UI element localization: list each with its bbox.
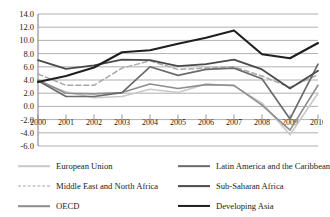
y-axis-tick-label: 8.0 (23, 49, 34, 59)
legend-swatch-latin-america-and-the-caribbean (178, 161, 210, 171)
legend-label-sub-saharan-africa: Sub-Saharan Africa (216, 181, 284, 191)
chart-svg: -6.0-4.0-2.00.02.04.06.08.010.012.014.0 … (0, 0, 323, 155)
legend-label-middle-east-and-north-africa: Middle East and North Africa (56, 181, 158, 191)
legend-item-sub-saharan-africa: Sub-Saharan Africa (178, 176, 323, 196)
legend-swatch-oecd (18, 201, 50, 211)
y-axis-tick-label: 4.0 (23, 75, 34, 85)
x-axis-tick-label: 2006 (198, 118, 214, 127)
legend-item-european-union: European Union (18, 156, 178, 176)
y-axis-tick-label: 10.0 (19, 35, 34, 45)
x-axis-tick-label: 2007 (226, 118, 242, 127)
legend-item-middle-east-and-north-africa: Middle East and North Africa (18, 176, 178, 196)
legend-swatch-european-union (18, 161, 50, 171)
legend-column-right: Latin America and the Caribbean Sub-Saha… (178, 156, 323, 216)
legend-label-european-union: European Union (56, 161, 113, 171)
legend-swatch-sub-saharan-africa (178, 181, 210, 191)
plot-area: -6.0-4.0-2.00.02.04.06.08.010.012.014.0 … (0, 0, 323, 155)
legend-column-left: European Union Middle East and North Afr… (18, 156, 178, 216)
legend-item-oecd: OECD (18, 196, 178, 216)
chart-legend: European Union Middle East and North Afr… (0, 156, 323, 217)
y-axis-tick-label: 0.0 (23, 101, 34, 111)
x-axis-tick-label: 2001 (58, 118, 74, 127)
y-axis-tick-label: -6.0 (21, 141, 34, 151)
series-line-middle-east-and-north-africa (38, 61, 318, 87)
series-line-developing-asia (38, 31, 318, 82)
x-axis-tick-label: 2008 (254, 118, 270, 127)
series-line-sub-saharan-africa (38, 60, 318, 89)
y-axis-tick-label: 14.0 (19, 9, 34, 19)
legend-label-oecd: OECD (56, 201, 79, 211)
legend-item-developing-asia: Developing Asia (178, 196, 323, 216)
legend-label-latin-america-and-the-caribbean: Latin America and the Caribbean (216, 161, 330, 171)
y-axis-tick-label: 12.0 (19, 22, 34, 32)
x-axis-tick-label: 2003 (114, 118, 130, 127)
y-axis-tick-label: 6.0 (23, 62, 34, 72)
y-axis-tick-label: 2.0 (23, 88, 34, 98)
legend-swatch-middle-east-and-north-africa (18, 181, 50, 191)
legend-item-latin-america-and-the-caribbean: Latin America and the Caribbean (178, 156, 323, 176)
x-axis-tick-label: 2004 (142, 118, 158, 127)
y-axis-tick-label: -4.0 (21, 128, 34, 138)
x-axis-tick-label: 2005 (170, 118, 186, 127)
legend-label-developing-asia: Developing Asia (216, 201, 274, 211)
legend-swatch-developing-asia (178, 201, 210, 211)
x-axis-tick-label: 2010 (310, 118, 323, 127)
x-axis-tick-label: 2002 (86, 118, 102, 127)
y-axis-tick-labels: -6.0-4.0-2.00.02.04.06.08.010.012.014.0 (19, 9, 34, 151)
